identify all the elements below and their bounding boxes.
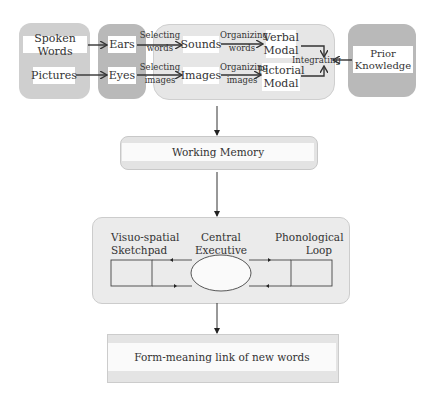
- arrowhead-right-top: [268, 258, 271, 262]
- arrow-verbal-to-integrating: [301, 46, 324, 57]
- arrowhead-right-bottom: [266, 284, 269, 288]
- arrowhead-left-bottom: [174, 284, 177, 288]
- arrowhead-left-top: [170, 258, 173, 262]
- diagram-connectors: [0, 0, 436, 398]
- visuo-spatial-box: [111, 260, 152, 286]
- central-executive-ellipse: [191, 255, 251, 291]
- arrow-pictorial-to-integrating: [301, 66, 324, 76]
- phonological-loop-box: [291, 260, 332, 286]
